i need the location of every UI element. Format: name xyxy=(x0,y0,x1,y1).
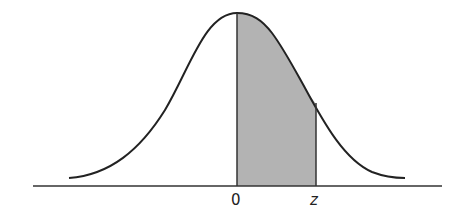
z-label: z xyxy=(310,193,318,208)
mean-label: 0 xyxy=(231,193,241,208)
normal-curve-figure: 0 z xyxy=(0,0,463,218)
normal-curve-svg xyxy=(0,0,463,218)
